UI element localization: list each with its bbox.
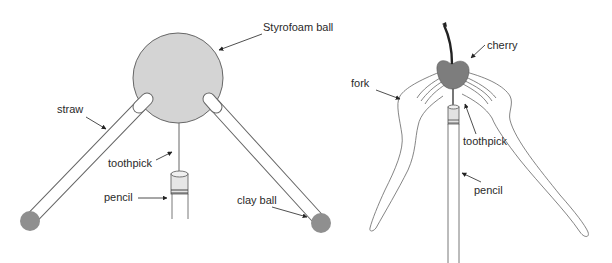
pencil	[171, 171, 188, 219]
fork-left	[370, 72, 443, 231]
label-cherry: cherry	[487, 40, 518, 51]
label-toothpick-right: toothpick	[463, 136, 507, 147]
arrow-cherry	[471, 45, 485, 58]
label-fork: fork	[351, 78, 369, 89]
styrofoam-ball	[133, 33, 223, 123]
cherry-stem	[444, 25, 452, 64]
label-pencil: pencil	[104, 192, 133, 203]
label-styrofoam-ball: Styrofoam ball	[263, 22, 333, 33]
arrow-straw	[86, 117, 106, 129]
arrow-pencil-right	[462, 173, 481, 182]
pencil-right	[448, 105, 459, 263]
arrow-styrofoam	[219, 34, 262, 50]
label-toothpick: toothpick	[108, 158, 152, 169]
clay-ball-right	[311, 213, 331, 233]
diagram-canvas	[0, 0, 612, 263]
arrow-fork	[376, 90, 400, 99]
arrow-toothpick	[156, 152, 172, 160]
arrow-toothpick-right	[465, 104, 476, 134]
clay-ball-left	[20, 211, 40, 231]
label-straw: straw	[57, 104, 83, 115]
label-clay-ball: clay ball	[237, 195, 277, 206]
styrofoam-balance-diagram	[20, 33, 331, 233]
label-pencil-right: pencil	[474, 185, 503, 196]
fork-right	[462, 72, 588, 237]
